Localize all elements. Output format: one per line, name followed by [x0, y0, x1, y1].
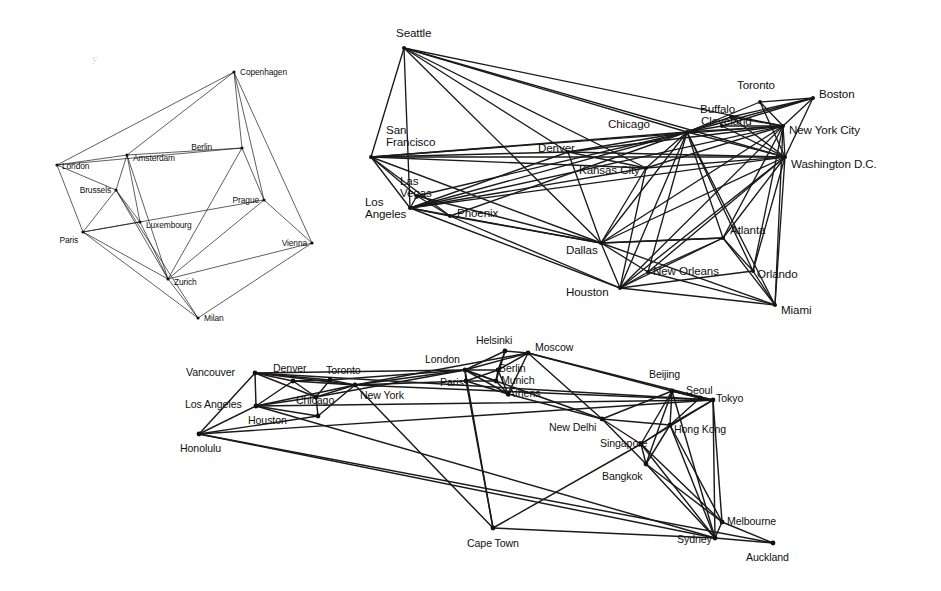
- graph-node-moscow[interactable]: [526, 351, 531, 356]
- graph-node-denver[interactable]: [291, 379, 296, 384]
- graph-node-washingtondc[interactable]: [783, 155, 787, 159]
- graph-node-copenhagen[interactable]: [232, 70, 235, 73]
- graph-edge: [57, 165, 83, 232]
- graph-node-newyork[interactable]: [353, 383, 358, 388]
- graph-edge: [127, 72, 234, 155]
- graph-node-vienna[interactable]: [310, 241, 313, 244]
- graph-edge: [255, 373, 256, 406]
- graph-edge: [493, 528, 715, 538]
- graph-node-beijing[interactable]: [670, 389, 675, 394]
- graph-edge: [83, 232, 168, 279]
- graph-node-brussels[interactable]: [114, 188, 117, 191]
- nodes-layer: [55, 46, 815, 545]
- graph-edge: [127, 148, 242, 155]
- graph-edge: [646, 464, 722, 522]
- edge-group-world: [199, 351, 773, 543]
- graph-edge: [140, 222, 168, 279]
- graph-edge: [404, 48, 568, 152]
- graph-node-prague[interactable]: [262, 198, 265, 201]
- graph-node-sydney[interactable]: [713, 536, 718, 541]
- graph-node-toronto[interactable]: [758, 100, 762, 104]
- graph-edge: [648, 238, 723, 272]
- graph-node-melbourne[interactable]: [720, 520, 725, 525]
- graph-node-berlin[interactable]: [496, 368, 501, 373]
- graph-node-bangkok[interactable]: [644, 462, 649, 467]
- graph-node-chicago[interactable]: [314, 395, 319, 400]
- graph-node-london[interactable]: [55, 163, 58, 166]
- graph-edge: [264, 200, 312, 243]
- graph-node-seoul[interactable]: [698, 396, 703, 401]
- graph-edge: [723, 157, 785, 238]
- graph-edge: [83, 190, 116, 232]
- graph-node-toronto[interactable]: [328, 378, 333, 383]
- node-group-europe: [55, 70, 313, 319]
- graph-node-vancouver[interactable]: [253, 371, 258, 376]
- graph-edge: [450, 132, 687, 216]
- graph-edge: [83, 200, 264, 232]
- graph-node-london[interactable]: [463, 368, 468, 373]
- graph-edge: [242, 148, 264, 200]
- graph-edge: [641, 425, 670, 444]
- graph-node-lasvegas[interactable]: [415, 194, 419, 198]
- edges-layer: [57, 48, 813, 543]
- graph-edge: [493, 444, 641, 528]
- graph-edge: [505, 351, 528, 353]
- graph-node-tokyo[interactable]: [711, 398, 716, 403]
- graph-node-hongkong[interactable]: [668, 423, 673, 428]
- graph-node-munich[interactable]: [494, 379, 499, 384]
- graph-node-chicago[interactable]: [685, 130, 689, 134]
- graph-edge: [234, 72, 264, 200]
- graph-edge: [371, 157, 601, 243]
- graph-node-helsinki[interactable]: [503, 349, 508, 354]
- graph-node-denver[interactable]: [566, 150, 570, 154]
- graph-edge: [602, 419, 641, 444]
- graph-node-phoenix[interactable]: [448, 214, 452, 218]
- graph-node-milan[interactable]: [196, 316, 199, 319]
- graph-edge: [168, 148, 242, 279]
- graph-node-kansascity[interactable]: [644, 166, 648, 170]
- graph-node-athens[interactable]: [506, 392, 511, 397]
- graph-node-dallas[interactable]: [599, 241, 603, 245]
- graph-node-amsterdam[interactable]: [125, 153, 128, 156]
- graph-edge: [785, 98, 813, 157]
- graph-edge: [199, 434, 715, 538]
- graph-node-losangeles[interactable]: [254, 404, 259, 409]
- graph-node-auckland[interactable]: [771, 541, 776, 546]
- graph-edge: [404, 48, 783, 126]
- graph-node-berlin[interactable]: [240, 146, 243, 149]
- graph-node-sanfrancisco[interactable]: [369, 155, 373, 159]
- graph-edge: [83, 232, 198, 318]
- graph-edge: [417, 196, 601, 243]
- graph-node-honolulu[interactable]: [197, 432, 202, 437]
- graph-node-paris[interactable]: [81, 230, 84, 233]
- graph-edge: [410, 126, 783, 208]
- graph-edge: [641, 444, 715, 538]
- graph-node-zurich[interactable]: [166, 277, 169, 280]
- graph-node-cleveland[interactable]: [720, 124, 724, 128]
- graph-node-boston[interactable]: [811, 96, 815, 100]
- graph-node-atlanta[interactable]: [721, 236, 725, 240]
- graph-node-newdelhi[interactable]: [600, 417, 605, 422]
- graph-node-singapore[interactable]: [639, 442, 644, 447]
- graph-node-miami[interactable]: [773, 303, 777, 307]
- graph-edge: [57, 155, 127, 165]
- graph-node-buffalo[interactable]: [729, 115, 733, 119]
- graph-edge: [371, 48, 404, 157]
- graph-node-losangeles[interactable]: [408, 206, 412, 210]
- graph-edge: [116, 190, 168, 279]
- graph-edge: [116, 155, 127, 190]
- graph-node-orlando[interactable]: [751, 269, 755, 273]
- graph-edge: [199, 373, 255, 434]
- graph-node-luxembourg[interactable]: [138, 220, 141, 223]
- graph-node-newyorkcity[interactable]: [781, 124, 785, 128]
- graph-node-seattle[interactable]: [402, 46, 406, 50]
- graph-edge: [410, 208, 620, 288]
- network-graph-figure: CopenhagenBerlinAmsterdamLondonBrusselsP…: [0, 0, 941, 591]
- graph-edge: [116, 190, 198, 318]
- graph-edge: [670, 425, 715, 538]
- graph-node-neworleans[interactable]: [646, 270, 650, 274]
- graph-node-paris[interactable]: [464, 379, 469, 384]
- graph-node-houston[interactable]: [316, 414, 321, 419]
- graph-node-houston[interactable]: [618, 286, 622, 290]
- graph-node-capetown[interactable]: [491, 526, 496, 531]
